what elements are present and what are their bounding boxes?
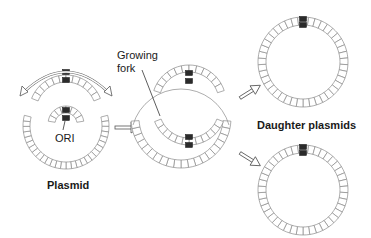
ori-marker-icon [300, 151, 307, 156]
daughter-plasmids-label: Daughter plasmids [257, 119, 356, 131]
daughter-plasmid-bottom [258, 145, 348, 236]
plasmid-label: Plasmid [47, 179, 89, 191]
ori-marker-icon [300, 23, 307, 28]
ori-marker-icon [63, 78, 70, 83]
ori-marker-icon [63, 116, 70, 121]
ori-marker-icon [300, 145, 307, 150]
ori-marker-icon [63, 108, 70, 113]
arrow-down-right-icon [237, 149, 263, 170]
ori-marker-icon [186, 135, 193, 140]
growing-fork-pointer [142, 70, 160, 116]
arrow-up-right-icon [237, 81, 263, 102]
plasmid-replication-diagram: ORI Plasmid Growing fork Daughter plasmi… [0, 0, 371, 238]
ori-label: ORI [55, 132, 75, 144]
growing-fork-label: Growing [117, 49, 158, 61]
ori-marker-icon [186, 143, 193, 148]
ori-marker-icon [186, 71, 193, 76]
growing-fork-label-line2: fork [117, 62, 136, 74]
parent-plasmid [23, 70, 109, 170]
ori-marker-icon [186, 79, 193, 84]
ori-pointer [63, 121, 65, 130]
ori-marker-icon [300, 17, 307, 22]
daughter-plasmid-top [258, 17, 348, 108]
